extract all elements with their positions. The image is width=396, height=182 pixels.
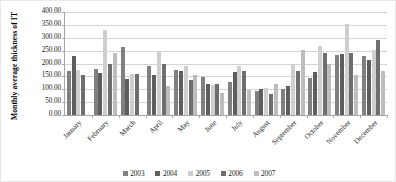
bar [184, 66, 188, 115]
bar [296, 71, 300, 115]
y-axis-tick-label: 100.00 [42, 84, 61, 92]
legend-label: 2005 [196, 169, 210, 178]
bar [72, 56, 76, 115]
x-axis-tick-label: September [279, 116, 306, 162]
bar [327, 64, 331, 116]
bar [233, 72, 237, 115]
chart-legend: 20032004200520062007 [1, 166, 396, 180]
bar [174, 70, 178, 115]
bar [274, 84, 278, 115]
bar [281, 89, 285, 115]
legend-label: 2004 [163, 169, 177, 178]
bar [345, 24, 349, 115]
bar [323, 53, 327, 115]
x-axis-tick-label: June [198, 116, 225, 162]
y-axis-tick-label: 250.00 [42, 46, 61, 54]
x-axis-tick-label: March [118, 116, 145, 162]
legend-item[interactable]: 2007 [254, 169, 276, 178]
bar [67, 71, 71, 115]
bar [308, 78, 312, 115]
bar [381, 71, 385, 115]
bar-group [119, 12, 146, 115]
bar [152, 75, 156, 115]
x-axis-tick-mark [387, 115, 388, 118]
legend-swatch-icon [123, 171, 128, 176]
y-axis-tick-labels: 400.00350.00300.00250.00200.00150.00100.… [27, 11, 63, 115]
bar [166, 86, 170, 115]
bar [162, 64, 166, 116]
bar [103, 30, 107, 115]
bar-group [65, 12, 92, 115]
bar [125, 79, 129, 115]
bar [340, 54, 344, 115]
y-axis-title: Monthly average thickness of IT [1, 7, 27, 125]
bar-group [145, 12, 172, 115]
x-axis-tick-label: July [225, 116, 252, 162]
bar [130, 74, 134, 115]
bar [372, 50, 376, 115]
legend-item[interactable]: 2006 [221, 169, 243, 178]
y-axis-tick-label: 150.00 [42, 71, 61, 79]
bar-group [333, 12, 360, 115]
legend-item[interactable]: 2004 [155, 169, 177, 178]
bar [108, 64, 112, 116]
y-axis-tick-label: 400.00 [42, 7, 61, 15]
legend-swatch-icon [188, 171, 193, 176]
bar-group [306, 12, 333, 115]
legend-label: 2003 [130, 169, 144, 178]
bar [201, 77, 205, 115]
bar [286, 86, 290, 115]
bar [367, 60, 371, 115]
bar [269, 94, 273, 115]
bar [349, 53, 353, 115]
y-axis-tick-label: 300.00 [42, 33, 61, 41]
bar [193, 75, 197, 115]
y-axis-tick-label: 0.00 [49, 110, 61, 118]
bar-group [280, 12, 307, 115]
bar [211, 85, 215, 115]
x-axis-tick-label: April [145, 116, 172, 162]
y-axis-title-label: Monthly average thickness of IT [10, 7, 19, 125]
x-axis-tick-labels: JanuaryFebruaryMarchAprilMayJuneJulyAugu… [64, 116, 386, 162]
bar [291, 64, 295, 115]
bar [206, 84, 210, 115]
x-axis-tick-label-text: July [230, 118, 245, 133]
bar-group [360, 12, 387, 115]
bar [157, 52, 161, 115]
x-axis-tick-label: February [91, 116, 118, 162]
legend-swatch-icon [155, 171, 160, 176]
bar [362, 56, 366, 115]
legend-swatch-icon [221, 171, 226, 176]
x-axis-tick-label-text: August [250, 118, 271, 139]
bar [237, 66, 241, 115]
legend-label: 2007 [261, 169, 275, 178]
x-axis-tick-label-text: October [302, 118, 325, 141]
bar [255, 91, 259, 115]
bar [376, 40, 380, 115]
y-axis-tick-label: 200.00 [42, 59, 61, 67]
bar [147, 66, 151, 115]
bar [242, 71, 246, 115]
bar [179, 71, 183, 115]
legend-item[interactable]: 2005 [188, 169, 210, 178]
bar [94, 69, 98, 115]
legend-item[interactable]: 2003 [123, 169, 145, 178]
bar [189, 80, 193, 115]
bar [121, 47, 125, 115]
bar-group [172, 12, 199, 115]
x-axis-tick-label-text: March [118, 118, 138, 138]
bar [135, 74, 139, 115]
x-axis-tick-label-text: June [202, 118, 218, 134]
bar-group [199, 12, 226, 115]
plot-area [64, 12, 387, 116]
x-axis-tick-label-text: May [175, 118, 191, 134]
bar [215, 84, 219, 115]
bar [81, 75, 85, 115]
bar [318, 46, 322, 115]
bar [113, 53, 117, 115]
x-axis-tick-label: May [171, 116, 198, 162]
bar-group [226, 12, 253, 115]
bar [354, 75, 358, 115]
bar [259, 89, 263, 115]
x-axis-tick-label-text: April [147, 118, 164, 135]
